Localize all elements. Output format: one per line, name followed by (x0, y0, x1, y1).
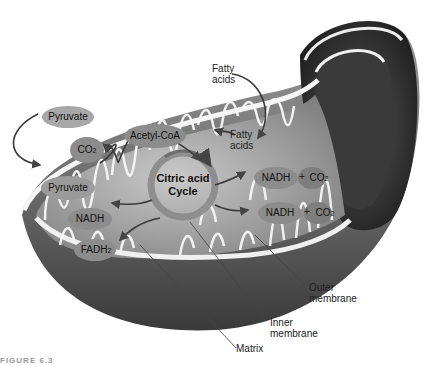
citric-acid-cycle-label: Citric acid Cycle (150, 172, 216, 198)
citric-acid-line: Citric acid (150, 172, 216, 185)
plus-sign-2: + (304, 206, 310, 217)
fatty-acids-outside-label: Fatty acids (212, 63, 235, 85)
outer-membrane-label: Outer membrane (309, 282, 357, 304)
pyruvate-inside-label: Pyruvate (41, 181, 95, 195)
pyruvate-outside-label: Pyruvate (42, 110, 94, 124)
acetyl-coa-label: Acetyl-CoA (124, 129, 186, 143)
nadh-right-2-label: NADH (258, 206, 302, 220)
nadh-right-1-label: NADH (254, 171, 298, 185)
fadh2-label: FADH2 (74, 243, 118, 257)
fatty-acids-inside-label: Fatty acids (230, 129, 253, 151)
nadh-left-label: NADH (68, 212, 112, 226)
matrix-label: Matrix (236, 343, 263, 354)
co2-right-2-label: CO2 (310, 206, 340, 220)
co2-left-label: CO2 (72, 143, 102, 157)
figure-caption: FIGURE 6.3 (0, 356, 54, 365)
inner-membrane-label: Inner membrane (270, 317, 318, 339)
co2-right-1-label: CO2 (304, 171, 334, 185)
cycle-line: Cycle (150, 185, 216, 198)
